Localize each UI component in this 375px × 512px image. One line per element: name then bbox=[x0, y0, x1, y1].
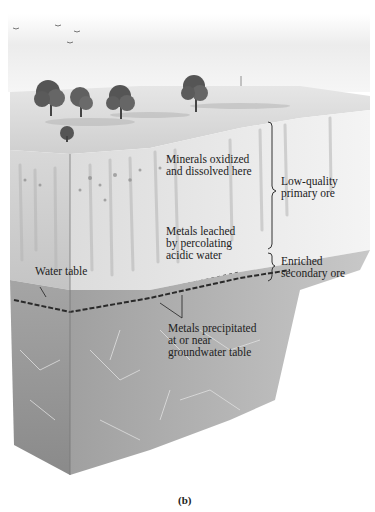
lower-zone-front-face bbox=[10, 280, 70, 475]
ore-enrichment-block-diagram: Minerals oxidized and dissolved here Met… bbox=[0, 0, 375, 512]
enriched-ore-label: Enriched secondary ore bbox=[281, 255, 345, 279]
low-quality-ore-label: Low-quality primary ore bbox=[281, 175, 338, 199]
minerals-oxidized-label: Minerals oxidized and dissolved here bbox=[166, 153, 252, 177]
metals-precipitated-label: Metals precipitated at or near groundwat… bbox=[168, 322, 256, 358]
figure-caption: (b) bbox=[178, 494, 191, 506]
metals-leached-label: Metals leached by percolating acidic wat… bbox=[166, 225, 235, 261]
water-table-label: Water table bbox=[35, 265, 87, 277]
